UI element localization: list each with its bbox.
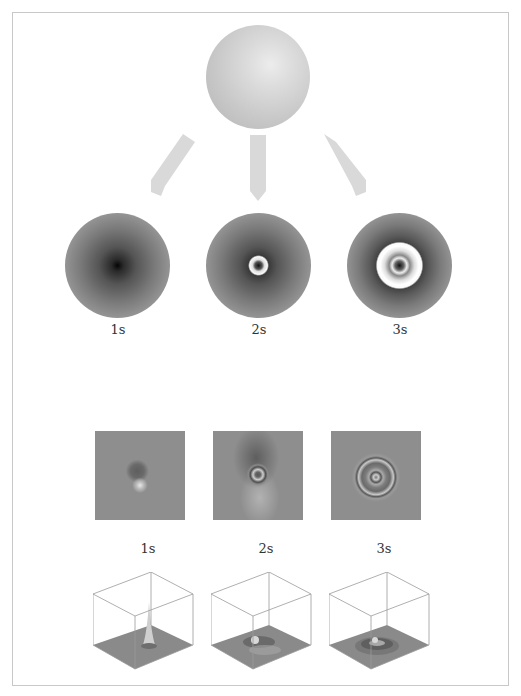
map-label-2s: 2s	[236, 541, 296, 556]
surface-plot-1s	[93, 572, 203, 677]
source-sphere	[206, 25, 310, 129]
arrow-down-right-icon	[316, 130, 376, 200]
surface-plot-2s	[211, 572, 321, 677]
wave-map-1s	[95, 431, 185, 520]
disk-label-2s: 2s	[229, 322, 289, 337]
map-label-1s: 1s	[118, 541, 178, 556]
arrow-down-left-icon	[145, 130, 205, 200]
disk-label-1s: 1s	[88, 322, 148, 337]
wave-disk-2s	[206, 213, 311, 318]
map-label-3s: 3s	[354, 541, 414, 556]
disk-label-3s: 3s	[370, 322, 430, 337]
wave-map-2s	[213, 431, 303, 520]
wave-map-3s	[331, 431, 421, 520]
wave-disk-1s	[65, 213, 170, 318]
arrow-down-icon	[245, 135, 275, 207]
wave-disk-3s	[347, 213, 452, 318]
surface-plot-3s	[329, 572, 439, 677]
